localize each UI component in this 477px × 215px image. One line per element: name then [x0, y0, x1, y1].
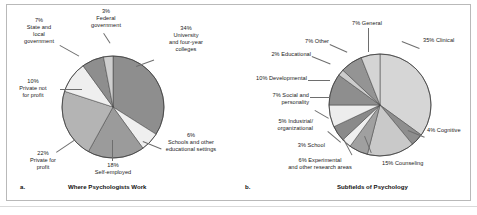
leader-a-self-employed — [112, 140, 113, 161]
label-b-social-personality: 7% Social and personality — [249, 92, 309, 106]
label-b-developmental: 10% Developmental — [241, 75, 307, 82]
label-a-state-local-government: 7% State and local government — [12, 17, 66, 45]
panel-a: 3% Federal government 7% State and local… — [0, 0, 239, 215]
label-a-university: 34% University and four-year colleges — [152, 25, 220, 53]
label-b-clinical: 35% Clinical — [423, 37, 475, 44]
label-a-self-employed: 18% Self-employed — [82, 162, 144, 176]
leader-a-federal — [103, 33, 110, 44]
leader-b-industrial — [315, 110, 329, 119]
panel-a-caption: Where Psychologists Work — [68, 183, 146, 190]
leader-a-private-not-for-profit — [60, 89, 82, 90]
leader-b-developmental — [308, 80, 330, 81]
panel-b-caption: Subfields of Psychology — [337, 183, 408, 190]
label-b-counseling: 15% Counseling — [382, 160, 438, 167]
label-b-other: 7% Other — [287, 38, 329, 45]
label-a-schools: 6% Schools and other educational setting… — [151, 132, 231, 153]
label-a-federal-government: 3% Federal government — [76, 8, 136, 29]
leader-b-other — [330, 44, 348, 53]
label-b-industrial-organizational: 5% Industrial/ organizational — [251, 118, 313, 132]
panel-b: 7% General 35% Clinical 7% Other 2% Educ… — [239, 0, 477, 215]
label-b-educational: 2% Educational — [257, 51, 311, 58]
label-b-experimental: 6% Experimental and other research areas — [277, 157, 363, 171]
label-b-cognitive: 4% Cognitive — [427, 127, 475, 134]
leader-b-general — [368, 28, 369, 52]
leader-b-clinical — [402, 41, 420, 49]
label-a-private-for-profit: 22% Private for profit — [16, 150, 70, 171]
label-b-general: 7% General — [352, 20, 408, 27]
label-b-school: 3% School — [279, 142, 325, 149]
figure-container: 3% Federal government 7% State and local… — [0, 0, 477, 215]
panel-a-letter: a. — [20, 183, 25, 190]
leader-b-social — [310, 97, 330, 98]
label-a-private-not-for-profit: 10% Private not for profit — [6, 78, 60, 99]
panel-b-letter: b. — [245, 183, 250, 190]
